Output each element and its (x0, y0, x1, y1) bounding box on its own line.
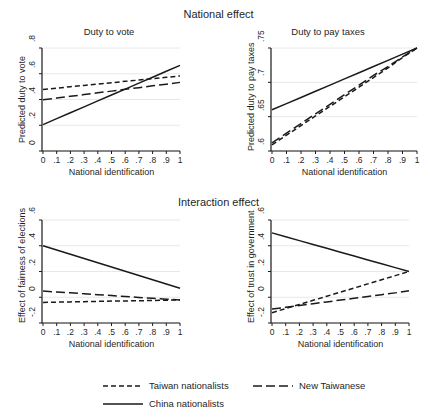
series-line (43, 65, 180, 124)
series-line (43, 300, 180, 302)
y-axis-label: Predicted duty to pay taxes (246, 48, 256, 151)
legend-swatch-solid (103, 399, 143, 409)
legend-swatch-long-dash (253, 381, 293, 391)
x-tick-label: 1 (170, 155, 190, 165)
x-axis-label: National identification (3, 339, 220, 349)
panel-effect-trust-government: 0.1.2.3.4.5.6.7.8.91-.20.2.4.6National i… (219, 212, 437, 372)
series-line (43, 76, 180, 90)
series-line (272, 48, 417, 110)
supertitle-interaction-effect: Interaction effect (0, 196, 437, 208)
panel-duty-to-vote: Duty to vote0.1.2.3.4.5.6.7.8.910.2.4.6.… (0, 26, 218, 196)
legend-swatch-short-dash (103, 381, 143, 391)
y-axis-label: Effect of trust in government (246, 220, 256, 323)
series-line (272, 233, 409, 272)
x-axis-label: National identification (3, 167, 220, 177)
series-line (272, 291, 409, 309)
panel-title: Duty to pay taxes (219, 26, 437, 37)
legend-label: China nationalists (149, 398, 224, 409)
series-line (43, 82, 180, 99)
legend-label: New Taiwanese (299, 380, 365, 391)
supertitle-national-effect: National effect (0, 8, 437, 20)
legend-label: Taiwan nationalists (149, 380, 229, 391)
x-axis-label: National identification (232, 167, 437, 177)
series-line (43, 246, 180, 288)
y-axis-label: Effect of fairness of elections (17, 220, 27, 323)
panel-effect-fairness-elections: 0.1.2.3.4.5.6.7.8.91-.20.2.4.6National i… (0, 212, 218, 372)
y-axis-label: Predicted duty to vote (17, 48, 27, 151)
x-tick-label: 1 (399, 327, 419, 337)
x-tick-label: 1 (170, 327, 190, 337)
x-axis-label: National identification (232, 339, 437, 349)
panel-duty-to-pay-taxes: Duty to pay taxes0.1.2.3.4.5.6.7.8.91.6.… (219, 26, 437, 196)
plot-area (43, 48, 188, 159)
x-tick-label: 1 (407, 155, 427, 165)
plot-area (272, 220, 417, 331)
figure-panel-grid: National effect Interaction effect Duty … (0, 0, 437, 420)
series-line (43, 291, 180, 300)
series-line (272, 48, 417, 143)
plot-area (43, 220, 188, 331)
plot-area (272, 48, 425, 159)
